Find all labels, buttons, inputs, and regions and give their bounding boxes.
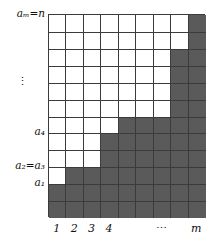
grid-cell xyxy=(171,32,188,49)
grid-cell xyxy=(84,100,101,117)
grid-cell xyxy=(189,15,206,32)
grid-cell xyxy=(66,83,83,100)
grid-cell xyxy=(84,201,101,218)
grid-cell xyxy=(66,201,83,218)
grid-cell xyxy=(49,15,66,32)
grid-cell xyxy=(49,184,66,201)
y-axis-ellipsis: ⋮ xyxy=(0,76,45,87)
grid-cell xyxy=(171,167,188,184)
grid-cell xyxy=(189,133,206,150)
grid-cell xyxy=(66,133,83,150)
grid-cell xyxy=(171,83,188,100)
grid-cell xyxy=(49,117,66,134)
grid-cell xyxy=(189,150,206,167)
grid-cell xyxy=(119,49,136,66)
grid-cell xyxy=(136,66,153,83)
grid-cell xyxy=(101,184,118,201)
grid-cell xyxy=(154,133,171,150)
grid-cell xyxy=(49,133,66,150)
grid-cell xyxy=(189,66,206,83)
grid-cell xyxy=(84,83,101,100)
grid-cell xyxy=(136,133,153,150)
grid-cell xyxy=(119,117,136,134)
grid-cell xyxy=(119,201,136,218)
grid-cell xyxy=(136,117,153,134)
grid-cell xyxy=(66,32,83,49)
grid-cell xyxy=(101,83,118,100)
grid-cell xyxy=(119,150,136,167)
y-axis-label-2: a₄ xyxy=(0,126,45,137)
grid-cell xyxy=(136,184,153,201)
grid-cell xyxy=(136,15,153,32)
y-axis-label-0: aₘ=n xyxy=(0,8,45,19)
x-axis-label-1: 1 xyxy=(48,223,65,235)
grid-cell xyxy=(154,15,171,32)
grid-cell xyxy=(66,100,83,117)
staircase-grid xyxy=(48,14,205,217)
grid-cell xyxy=(136,167,153,184)
grid-cell xyxy=(119,184,136,201)
grid-cell xyxy=(49,66,66,83)
grid-cell xyxy=(154,167,171,184)
x-axis-label-4: 4 xyxy=(100,223,117,235)
grid-cell xyxy=(66,49,83,66)
grid-cell xyxy=(154,117,171,134)
grid-cell xyxy=(189,32,206,49)
grid-cell xyxy=(84,184,101,201)
grid-cell xyxy=(136,49,153,66)
grid-cell xyxy=(171,49,188,66)
grid-cell xyxy=(66,184,83,201)
grid-cell xyxy=(154,32,171,49)
grid-cell xyxy=(49,201,66,218)
x-axis-label-m: m xyxy=(188,223,205,235)
grid-cell xyxy=(66,150,83,167)
grid-cell xyxy=(136,150,153,167)
grid-cell xyxy=(101,167,118,184)
grid-cell xyxy=(101,201,118,218)
grid-cell xyxy=(49,150,66,167)
grid-cell xyxy=(119,66,136,83)
grid-cell xyxy=(136,100,153,117)
grid-cell xyxy=(49,49,66,66)
grid-cell xyxy=(84,117,101,134)
grid-cell xyxy=(49,100,66,117)
grid-cell xyxy=(101,49,118,66)
grid-cell xyxy=(101,117,118,134)
grid-cell xyxy=(154,150,171,167)
grid-cell xyxy=(84,150,101,167)
grid-cell xyxy=(136,201,153,218)
grid-cell xyxy=(119,133,136,150)
grid-cell xyxy=(136,83,153,100)
grid-cell xyxy=(154,100,171,117)
grid-cell xyxy=(66,66,83,83)
y-axis-label-3: a₂=a₃ xyxy=(0,160,45,171)
grid-cell xyxy=(189,83,206,100)
grid-cell xyxy=(84,49,101,66)
grid-cell xyxy=(136,32,153,49)
grid-cell xyxy=(171,133,188,150)
grid-cell xyxy=(154,201,171,218)
grid-cell xyxy=(154,66,171,83)
grid-cell xyxy=(119,32,136,49)
x-axis-label-2: 2 xyxy=(65,223,82,235)
grid-cell xyxy=(189,100,206,117)
grid-cell xyxy=(171,150,188,167)
grid-cell xyxy=(119,167,136,184)
grid-cell xyxy=(119,100,136,117)
grid-cell xyxy=(189,201,206,218)
grid-cell xyxy=(49,32,66,49)
grid-cell xyxy=(154,184,171,201)
grid-cell xyxy=(84,15,101,32)
grid-cell xyxy=(84,167,101,184)
grid-cell xyxy=(101,15,118,32)
grid-cell xyxy=(171,117,188,134)
grid-cell xyxy=(66,167,83,184)
grid-cell xyxy=(101,66,118,83)
grid-cell xyxy=(101,133,118,150)
x-axis-label-3: 3 xyxy=(83,223,100,235)
grid-cell xyxy=(84,66,101,83)
grid-cell xyxy=(119,15,136,32)
grid-cell xyxy=(189,49,206,66)
grid-cell xyxy=(171,201,188,218)
grid-cell xyxy=(101,100,118,117)
